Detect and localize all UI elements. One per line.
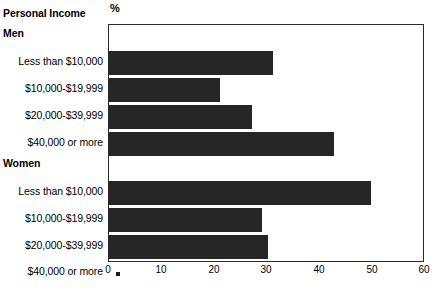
bar-men-0 — [109, 51, 273, 75]
x-tick-40: 40 — [306, 264, 332, 276]
bar-men-2 — [109, 105, 252, 129]
x-tick-10: 10 — [148, 264, 174, 276]
bars-layer — [109, 25, 423, 261]
category-label-women-2: $20,000-$39,999 — [0, 239, 103, 251]
x-tick-50: 50 — [359, 264, 385, 276]
percent-axis-label: % — [110, 2, 120, 14]
bar-women-1 — [109, 208, 262, 232]
x-tick-0: 0 — [95, 264, 121, 276]
bar-women-2 — [109, 235, 268, 259]
category-label-women-1: $10,000-$19,999 — [0, 212, 103, 224]
group-heading-men: Men — [3, 27, 103, 39]
category-label-men-3: $40,000 or more — [0, 136, 103, 148]
category-label-column: Personal Income Men Less than $10,000 $1… — [0, 0, 103, 290]
chart-title-personal-income: Personal Income — [3, 7, 103, 19]
bar-men-1 — [109, 78, 220, 102]
x-tick-60: 60 — [411, 264, 435, 276]
x-tick-20: 20 — [201, 264, 227, 276]
bar-women-0 — [109, 181, 371, 205]
category-label-women-0: Less than $10,000 — [0, 185, 103, 197]
x-axis-tick-labels: 0 10 20 30 40 50 60 — [0, 264, 435, 284]
category-label-men-1: $10,000-$19,999 — [0, 82, 103, 94]
bar-chart: Personal Income Men Less than $10,000 $1… — [0, 0, 435, 290]
category-label-men-0: Less than $10,000 — [0, 55, 103, 67]
bar-men-3 — [109, 132, 334, 156]
category-label-men-2: $20,000-$39,999 — [0, 109, 103, 121]
group-heading-women: Women — [3, 157, 103, 169]
x-tick-30: 30 — [253, 264, 279, 276]
